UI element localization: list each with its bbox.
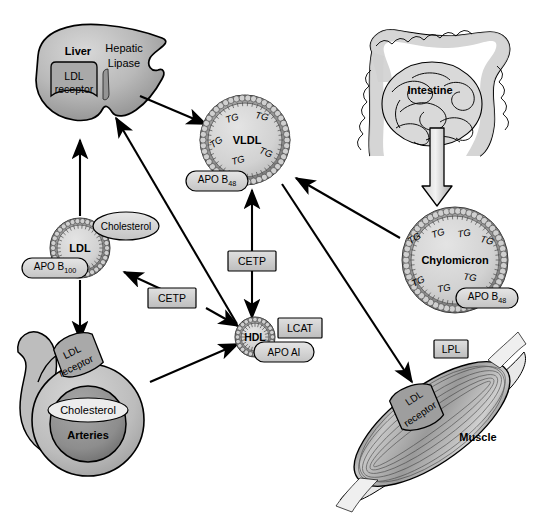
hdl-apo-label: APO AI [268, 347, 301, 358]
muscle-organ [335, 332, 529, 512]
chylomicron-tg-label: TG [463, 271, 478, 284]
cetp-upper-label: CETP [238, 255, 266, 267]
muscle-label: Muscle [459, 431, 496, 443]
hepatic-lipase-label-line2: Lipase [108, 57, 140, 69]
arrow-liver-to-vldl [140, 96, 206, 124]
vldl-label: VLDL [233, 134, 262, 146]
lcat-label: LCAT [287, 322, 313, 334]
lpl-label: LPL [442, 343, 461, 355]
liver-receptor-label-line1: LDL [64, 70, 83, 82]
arrow-arteries-to-hdl [150, 344, 238, 382]
vldl-apo-label: APO B48 [198, 174, 237, 188]
hdl-label: HDL [244, 331, 266, 343]
liver-label: Liver [65, 45, 91, 57]
chylomicron-apo-label: APO B48 [468, 291, 507, 305]
chylomicron-label: Chylomicron [421, 254, 488, 266]
ldl-apo-label: APO B100 [34, 261, 77, 275]
chylomicron-tg-label: TG [457, 227, 472, 240]
intestine-label: Intestine [407, 84, 452, 96]
hepatic-lipase-label-line1: Hepatic [105, 42, 142, 54]
liver-receptor-label-line2: receptor [55, 83, 94, 95]
ldl-cholesterol-label: Cholesterol [101, 221, 152, 232]
diagram-canvas: Liver Hepatic Lipase LDL receptor Intest… [0, 0, 538, 518]
cetp-lower-label: CETP [158, 292, 186, 304]
ldl-label: LDL [69, 242, 90, 254]
chylomicron-tg-label: TG [437, 281, 452, 294]
arteries-cholesterol-label: Cholesterol [60, 404, 116, 416]
arteries-label: Arteries [67, 429, 109, 441]
